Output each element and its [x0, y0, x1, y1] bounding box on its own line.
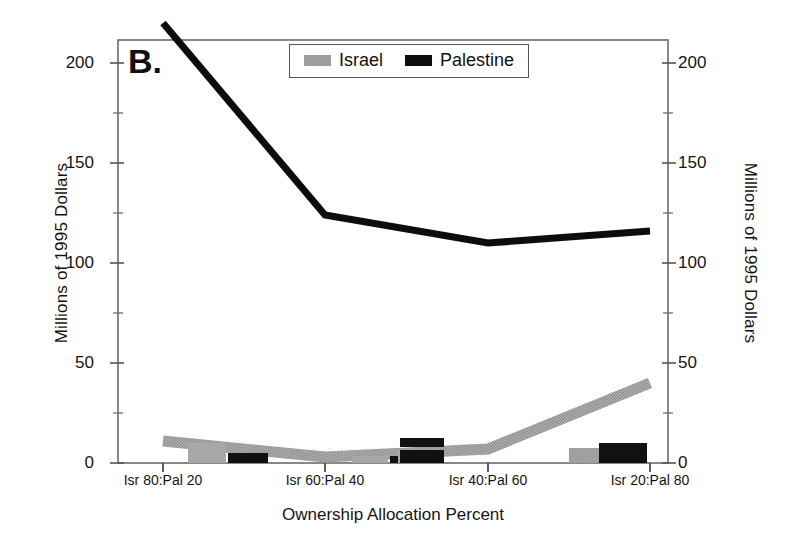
marker-israel-1 [352, 456, 388, 463]
marker-palestine-3b [400, 450, 444, 463]
legend-label-israel: Israel [339, 50, 383, 71]
marker-palestine-3a [400, 438, 444, 447]
legend-swatch-palestine-icon [405, 55, 432, 66]
y-axis-major-ticks-right [662, 63, 676, 463]
marker-palestine-4 [599, 443, 647, 463]
plot-area [0, 0, 806, 550]
y-axis-major-ticks-left [110, 63, 124, 463]
x-axis-ticks [163, 463, 650, 472]
chart-legend: Israel Palestine [289, 44, 529, 78]
chart-figure: Millions of 1995 Dollars Millions of 199… [0, 0, 806, 550]
legend-entry-israel: Israel [304, 50, 383, 71]
legend-entry-palestine: Palestine [405, 50, 514, 71]
marker-israel-3 [569, 448, 599, 463]
marker-israel-0 [188, 443, 226, 463]
panel-label: B. [128, 42, 162, 81]
legend-label-palestine: Palestine [440, 50, 514, 71]
plot-frame [118, 40, 668, 463]
marker-palestine-0 [228, 453, 268, 463]
legend-swatch-israel-icon [304, 55, 331, 66]
